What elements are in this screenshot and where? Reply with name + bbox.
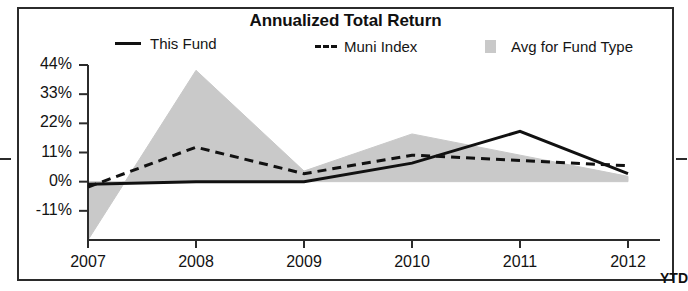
- avg-fund-type-area-series: [88, 70, 628, 240]
- x-axis-tick-label: 2008: [161, 253, 231, 271]
- y-axis-tick-label: 44%: [12, 55, 72, 73]
- plot-area: [19, 9, 672, 279]
- y-axis-tick-label: -11%: [12, 201, 72, 219]
- x-axis-tick-label: 2012: [593, 253, 663, 271]
- x-axis-tick-label: 2010: [377, 253, 447, 271]
- x-axis-tick-label: 2009: [269, 253, 339, 271]
- x-axis-tick-label: 2011: [485, 253, 555, 271]
- frame-stub-right: [676, 158, 687, 160]
- frame-stub-left: [0, 158, 11, 160]
- y-axis-tick-label: 22%: [12, 113, 72, 131]
- chart-frame: Annualized Total Return This Fund Muni I…: [17, 7, 674, 281]
- y-axis-tick-label: 11%: [12, 143, 72, 161]
- y-axis-tick-label: 0%: [12, 172, 72, 190]
- x-axis-tick-label: 2007: [53, 253, 123, 271]
- y-axis-tick-label: 33%: [12, 84, 72, 102]
- x-axis-ytd-note: YTD: [660, 270, 688, 286]
